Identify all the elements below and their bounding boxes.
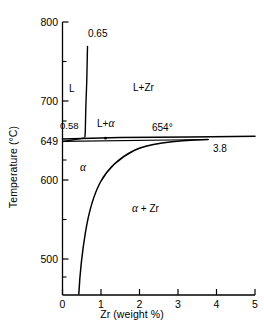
y-tick-label-600: 600 [22, 175, 58, 186]
y-tick-label-500: 500 [22, 254, 58, 265]
curve-solvus-alpha-zr [79, 140, 208, 294]
x-axis-major-ticks [63, 289, 256, 295]
x-tick-label-3: 3 [168, 299, 188, 310]
y-axis-title: Temperature (°C) [4, 0, 22, 334]
x-tick-label-0: 0 [53, 299, 73, 310]
x-tick-label-1: 1 [91, 299, 111, 310]
y-tick-label-649: 649 [22, 136, 58, 147]
phase-region-label-L-alpha: L+α [97, 118, 114, 129]
line-peritectic-654 [63, 136, 256, 139]
y-tick-label-700: 700 [22, 96, 58, 107]
phase-region-label-alpha: α [80, 162, 86, 173]
peritectic-point-marker [104, 137, 107, 140]
composition-label-058: 0.58 [60, 120, 79, 131]
phase-diagram-plot [0, 0, 264, 334]
x-tick-label-2: 2 [130, 299, 150, 310]
x-tick-label-4: 4 [207, 299, 227, 310]
phase-region-label-alpha-Zr-suffix: + Zr [138, 203, 159, 214]
phase-diagram-figure: Temperature (°C) Zr (weight %) 800 700 6… [0, 0, 264, 334]
alpha-glyph: α [108, 117, 114, 129]
temperature-label-654: 654° [152, 122, 173, 133]
phase-region-label-L-Zr: L+Zr [133, 82, 154, 93]
phase-region-label-L: L [69, 83, 75, 94]
composition-label-065: 0.65 [88, 28, 107, 39]
phase-region-label-alpha-Zr: α + Zr [132, 203, 159, 214]
phase-region-label-L-alpha-prefix: L+ [97, 118, 108, 129]
composition-label-38: 3.8 [213, 143, 227, 154]
curve-liquidus [85, 47, 88, 137]
x-tick-label-5: 5 [245, 299, 264, 310]
y-tick-label-800: 800 [22, 17, 58, 28]
